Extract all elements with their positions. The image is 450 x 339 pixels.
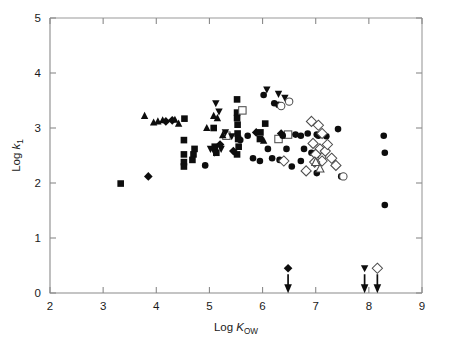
data-point-filled-circle <box>301 146 308 153</box>
x-tick-label: 8 <box>366 300 372 312</box>
x-tick-label: 6 <box>259 300 265 312</box>
y-tick-label: 4 <box>35 67 42 79</box>
y-tick-label: 3 <box>35 122 41 134</box>
down-arrow-head <box>374 284 382 293</box>
data-point-filled-circle <box>380 132 387 139</box>
data-point-filled-triangle-down <box>215 108 222 115</box>
x-axis-title: Log KOW <box>214 321 258 336</box>
down-arrow-head <box>361 284 369 293</box>
data-point-filled-triangle-down <box>275 91 282 98</box>
data-point-open-circle <box>340 173 347 180</box>
censored-point <box>284 264 293 293</box>
data-point-filled-circle <box>335 126 342 133</box>
censored-point <box>372 263 382 293</box>
data-point-filled-circle <box>265 146 272 153</box>
data-point-open-diamond <box>372 263 382 273</box>
data-point-filled-square <box>234 115 241 122</box>
data-point-open-circle <box>277 102 284 109</box>
data-point-filled-square <box>210 125 217 132</box>
data-point-filled-circle <box>202 162 209 169</box>
data-point-open-diamond <box>301 166 311 176</box>
data-markers <box>117 86 388 208</box>
scatter-plot-figure: 23456789012345 Log KOWLog k1 <box>0 0 450 339</box>
censored-markers <box>284 263 383 293</box>
data-point-filled-square <box>117 180 124 187</box>
data-point-filled-circle <box>382 149 389 156</box>
data-point-filled-diamond <box>284 264 293 273</box>
data-point-filled-square <box>181 115 188 122</box>
data-point-filled-square <box>234 96 241 103</box>
y-axis-title: Log k1 <box>10 139 25 172</box>
data-point-filled-circle <box>289 163 296 170</box>
data-point-filled-circle <box>237 137 244 144</box>
data-point-filled-triangle-down <box>212 100 219 107</box>
data-point-filled-diamond <box>144 172 153 181</box>
data-point-filled-square <box>235 143 242 150</box>
x-tick-label: 9 <box>419 300 425 312</box>
x-tick-label: 2 <box>47 300 53 312</box>
data-point-filled-square <box>189 157 196 164</box>
y-tick-label: 0 <box>35 287 41 299</box>
data-point-filled-circle <box>250 155 257 162</box>
data-point-filled-circle <box>257 158 264 165</box>
data-point-filled-circle <box>382 202 389 209</box>
data-point-filled-circle <box>244 132 251 139</box>
data-point-filled-circle <box>279 132 286 139</box>
data-point-filled-square <box>181 137 188 144</box>
down-arrow-head <box>284 284 292 293</box>
x-tick-label: 4 <box>153 300 160 312</box>
data-point-filled-circle <box>260 92 267 99</box>
y-tick-label: 1 <box>35 232 41 244</box>
data-point-open-circle <box>285 98 292 105</box>
x-tick-label: 5 <box>206 300 212 312</box>
data-point-filled-square <box>262 120 269 127</box>
x-tick-label: 3 <box>100 300 106 312</box>
data-point-open-square <box>239 107 246 114</box>
data-point-filled-circle <box>283 146 290 153</box>
y-tick-label: 5 <box>35 12 41 24</box>
data-point-filled-circle <box>304 130 311 137</box>
data-point-filled-triangle-down <box>361 265 368 272</box>
censored-point <box>361 265 369 293</box>
chart-canvas: 23456789012345 Log KOWLog k1 <box>0 0 450 339</box>
series-filled-circle <box>202 92 388 209</box>
data-point-filled-circle <box>298 132 305 139</box>
data-point-filled-circle <box>298 158 305 165</box>
data-point-filled-square <box>181 163 188 170</box>
data-point-filled-triangle-up <box>203 124 210 131</box>
data-point-filled-square <box>234 121 241 128</box>
data-point-filled-triangle-up <box>141 112 148 119</box>
data-point-filled-square <box>181 151 188 158</box>
y-tick-label: 2 <box>35 177 41 189</box>
data-point-filled-circle <box>269 155 276 162</box>
x-tick-label: 7 <box>313 300 319 312</box>
